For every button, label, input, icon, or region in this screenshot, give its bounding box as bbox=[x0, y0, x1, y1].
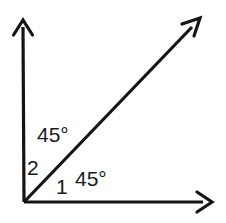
angle-diagram: 45° 2 1 45° bbox=[0, 0, 226, 223]
diagram-canvas bbox=[0, 0, 226, 223]
diagonal-ray-line bbox=[24, 27, 192, 202]
upper-angle-measure-label: 45° bbox=[37, 124, 69, 145]
angle-2-label: 2 bbox=[27, 157, 39, 178]
lower-angle-measure-label: 45° bbox=[75, 168, 107, 189]
angle-1-label: 1 bbox=[56, 176, 68, 197]
vertical-ray-line bbox=[23, 27, 24, 202]
